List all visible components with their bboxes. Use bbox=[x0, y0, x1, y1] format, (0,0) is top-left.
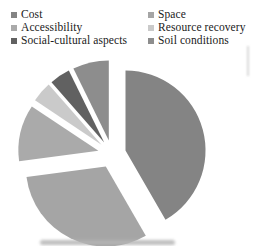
cropped-text-artifact bbox=[40, 240, 175, 245]
pie-slice-cost bbox=[126, 70, 206, 219]
exploded-pie-chart bbox=[0, 0, 256, 246]
pie-chart-figure: Cost Accessibility Social-cultural aspec… bbox=[0, 0, 256, 246]
scan-edge-artifact bbox=[247, 46, 249, 76]
pie-slice-space bbox=[27, 167, 146, 246]
